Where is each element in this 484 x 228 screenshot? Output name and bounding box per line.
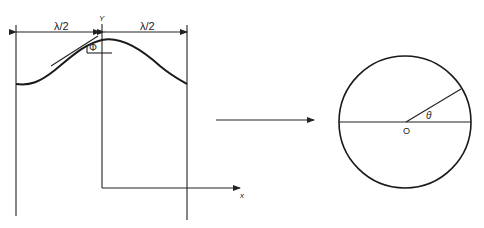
- half-wavelength-left-label: λ/2: [54, 20, 69, 32]
- origin-label: O: [403, 126, 410, 136]
- half-wavelength-right-label: λ/2: [140, 20, 155, 32]
- diagram-canvas: λ/2 λ/2 Φ Y x O θ: [0, 0, 484, 228]
- wave-panel: λ/2 λ/2 Φ Y x: [16, 14, 245, 220]
- phase-label: Φ: [89, 42, 97, 53]
- circle-panel: O θ: [339, 56, 471, 188]
- x-axis-label: x: [239, 191, 245, 200]
- angle-label: θ: [426, 110, 432, 121]
- y-axis-label: Y: [99, 14, 105, 23]
- radius-line: [406, 89, 461, 122]
